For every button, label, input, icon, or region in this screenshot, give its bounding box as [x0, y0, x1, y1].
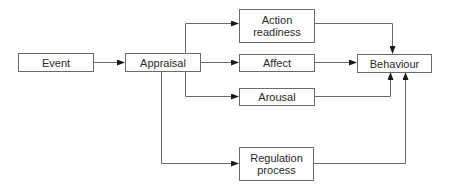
node-affect-label: Affect	[263, 57, 291, 69]
node-action-readiness-label-1: Action	[262, 14, 293, 26]
node-event-label: Event	[42, 57, 70, 69]
edge-appraisal-action-readiness	[186, 24, 239, 54]
node-arousal: Arousal	[239, 88, 315, 106]
node-behaviour: Behaviour	[357, 54, 432, 73]
edge-arousal-behaviour	[314, 73, 391, 97]
node-arousal-label: Arousal	[258, 91, 295, 103]
edge-appraisal-arousal	[186, 71, 239, 97]
edge-appraisal-regulation	[162, 71, 239, 164]
connector-lines	[0, 0, 450, 189]
node-behaviour-label: Behaviour	[370, 58, 420, 70]
edge-action-readiness-behaviour	[314, 24, 393, 54]
node-action-readiness: Action readiness	[239, 9, 315, 43]
node-event: Event	[18, 53, 94, 72]
node-regulation-process-label-1: Regulation	[250, 152, 303, 164]
node-action-readiness-label-2: readiness	[253, 26, 301, 38]
edge-regulation-behaviour	[313, 73, 406, 164]
node-regulation-process: Regulation process	[239, 147, 314, 181]
node-appraisal-label: Appraisal	[140, 57, 186, 69]
node-affect: Affect	[239, 54, 315, 72]
node-regulation-process-label-2: process	[257, 164, 296, 176]
node-appraisal: Appraisal	[125, 53, 201, 72]
